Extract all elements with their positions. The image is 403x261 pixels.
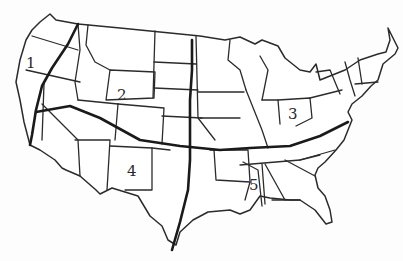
region-label-5: 5 [249,178,259,193]
region-label-1: 1 [26,56,36,71]
us-region-map: 1 2 3 4 5 [0,0,403,261]
region-label-3: 3 [288,107,298,122]
region-label-2: 2 [117,88,127,103]
region-label-4: 4 [127,164,137,179]
us-outline-svg [0,0,403,261]
